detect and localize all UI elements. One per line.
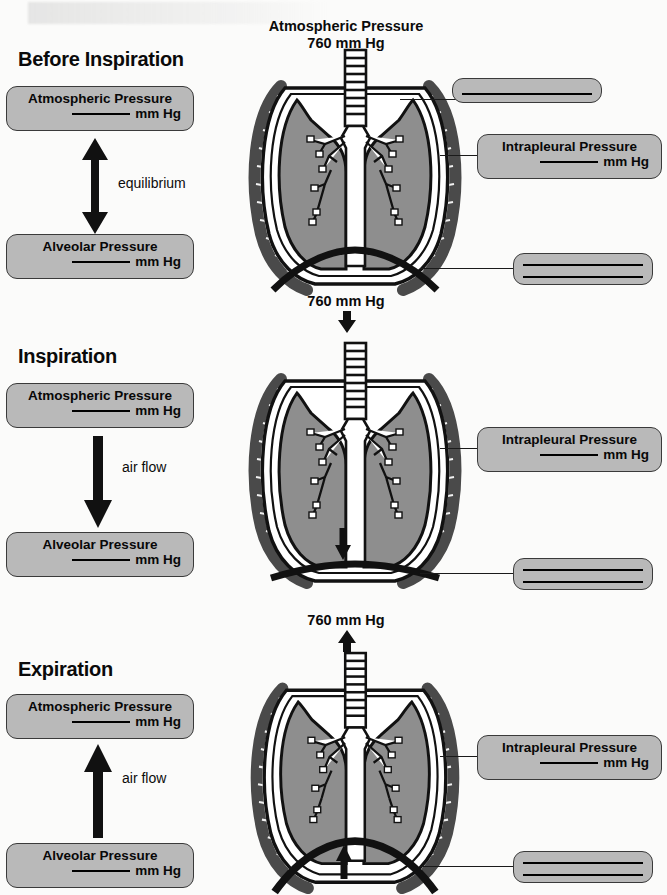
- blank-line: [540, 161, 598, 163]
- inflow-arrow-2: [338, 311, 356, 333]
- callout-blank-lower-2[interactable]: [513, 558, 653, 590]
- lung-diagram-inspiration: [245, 345, 465, 590]
- blank-line: [72, 721, 130, 723]
- label-alveolar-pressure-expiration: Alveolar Pressure mm Hg: [6, 843, 194, 888]
- airflow-up-arrow-expiration: [83, 744, 113, 838]
- label-line2: mm Hg: [15, 714, 185, 729]
- figure-title: Atmospheric Pressure: [266, 18, 426, 34]
- label-line1: Atmospheric Pressure: [28, 91, 172, 106]
- lung-diagram-before-inspiration: [245, 52, 465, 297]
- label-line2: mm Hg: [486, 755, 653, 770]
- leader-line-lower-blank-2: [420, 573, 518, 574]
- blank-line: [540, 762, 598, 764]
- callout-blank-upper-1[interactable]: [452, 78, 602, 103]
- label-line1: Intrapleural Pressure: [502, 740, 637, 755]
- airflow-down-arrow-inspiration: [83, 436, 113, 528]
- blank-line: [72, 113, 130, 115]
- section-title-expiration: Expiration: [18, 658, 113, 681]
- label-line2: mm Hg: [486, 154, 653, 169]
- callout-intrapleural-pressure-1: Intrapleural Pressure mm Hg: [477, 134, 662, 179]
- blank-line: [72, 870, 130, 872]
- diagram-pressure-value-3: 760 mm Hg: [266, 612, 426, 628]
- label-line1: Intrapleural Pressure: [502, 139, 637, 154]
- leader-line-lower-blank-3: [420, 866, 518, 867]
- label-line2: mm Hg: [15, 403, 185, 418]
- label-line2: mm Hg: [486, 447, 653, 462]
- label-line1: Atmospheric Pressure: [28, 699, 172, 714]
- blank-line: [72, 559, 130, 561]
- leader-line-intrapleural-2: [440, 448, 482, 449]
- label-line2: mm Hg: [15, 863, 185, 878]
- label-line2: mm Hg: [15, 254, 185, 269]
- label-line2: mm Hg: [15, 552, 185, 567]
- leader-line-intrapleural-3: [440, 756, 482, 757]
- label-alveolar-pressure-inspiration: Alveolar Pressure mm Hg: [6, 532, 194, 577]
- label-alveolar-pressure-before: Alveolar Pressure mm Hg: [6, 234, 194, 279]
- callout-blank-lower-3[interactable]: [513, 851, 653, 883]
- leader-line-upper-blank-1: [400, 99, 458, 100]
- airflow-text-expiration: air flow: [122, 770, 166, 786]
- blank-line: [540, 454, 598, 456]
- blank-line: [72, 261, 130, 263]
- callout-intrapleural-pressure-2: Intrapleural Pressure mm Hg: [477, 427, 662, 472]
- equilibrium-double-arrow: [78, 138, 112, 234]
- label-line1: Intrapleural Pressure: [502, 432, 637, 447]
- leader-line-intrapleural-1: [440, 155, 482, 156]
- label-line1: Alveolar Pressure: [43, 537, 158, 552]
- section-title-inspiration: Inspiration: [18, 345, 117, 368]
- diaphragm-down-arrow-inspiration: [335, 528, 351, 560]
- label-atmospheric-pressure-expiration: Atmospheric Pressure mm Hg: [6, 694, 194, 739]
- figure-title-value: 760 mm Hg: [266, 35, 426, 51]
- diaphragm-up-arrow-expiration: [336, 845, 352, 879]
- label-line1: Alveolar Pressure: [43, 239, 158, 254]
- label-line2: mm Hg: [15, 106, 185, 121]
- equilibrium-text: equilibrium: [118, 175, 186, 191]
- callout-blank-lower-1[interactable]: [513, 253, 653, 285]
- diagram-pressure-value-2: 760 mm Hg: [266, 293, 426, 309]
- label-atmospheric-pressure-inspiration: Atmospheric Pressure mm Hg: [6, 383, 194, 428]
- leader-line-lower-blank-1: [420, 268, 518, 269]
- airflow-text-inspiration: air flow: [122, 459, 166, 475]
- label-atmospheric-pressure-before: Atmospheric Pressure mm Hg: [6, 86, 194, 131]
- callout-intrapleural-pressure-3: Intrapleural Pressure mm Hg: [477, 735, 662, 780]
- outflow-arrow-3: [338, 630, 356, 652]
- blank-line: [72, 410, 130, 412]
- section-title-before-inspiration: Before Inspiration: [18, 48, 184, 71]
- lung-diagram-expiration: [245, 655, 465, 895]
- label-line1: Alveolar Pressure: [43, 848, 158, 863]
- label-line1: Atmospheric Pressure: [28, 388, 172, 403]
